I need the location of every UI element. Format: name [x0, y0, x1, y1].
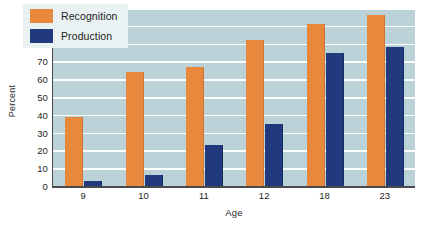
legend-item-production: Production — [30, 29, 118, 43]
bar-recognition-9 — [65, 117, 83, 186]
bar-group — [367, 8, 403, 186]
bar-group — [307, 8, 343, 186]
bar-group — [126, 8, 162, 186]
x-axis-tick-labels: 91011121823 — [53, 190, 415, 206]
y-axis-tick-label: 0 — [22, 181, 48, 192]
bar-production-10 — [145, 175, 163, 186]
x-axis-title: Age — [53, 207, 415, 218]
bar-recognition-23 — [367, 15, 385, 186]
bar-production-12 — [265, 124, 283, 186]
legend-label-recognition: Recognition — [61, 10, 118, 22]
y-axis-tick-label: 70 — [22, 56, 48, 67]
y-axis-tick-label: 50 — [22, 92, 48, 103]
bar-recognition-18 — [307, 24, 325, 186]
bar-production-23 — [386, 47, 404, 186]
x-axis-line — [52, 186, 415, 188]
bar-chart: Percent 0102030405060708090100 Recogniti… — [0, 0, 422, 226]
bar-group — [246, 8, 282, 186]
x-axis-tick-label: 9 — [63, 190, 103, 201]
legend-item-recognition: Recognition — [30, 9, 118, 23]
y-axis-tick-label: 40 — [22, 109, 48, 120]
y-axis-tick-label: 60 — [22, 74, 48, 85]
legend-swatch-production-icon — [30, 29, 53, 43]
legend-swatch-recognition-icon — [30, 9, 53, 23]
bar-production-18 — [326, 53, 344, 187]
bar-recognition-11 — [186, 67, 204, 186]
y-axis-tick-label: 30 — [22, 127, 48, 138]
x-axis-tick-label: 18 — [305, 190, 345, 201]
x-axis-tick-label: 23 — [365, 190, 405, 201]
y-axis-title: Percent — [7, 71, 17, 131]
legend-label-production: Production — [61, 30, 112, 42]
bar-recognition-12 — [246, 40, 264, 186]
chart-legend: Recognition Production — [23, 4, 128, 48]
bar-group — [186, 8, 222, 186]
x-axis-tick-label: 11 — [184, 190, 224, 201]
bar-production-11 — [205, 145, 223, 186]
y-axis-tick-label: 20 — [22, 145, 48, 156]
bar-recognition-10 — [126, 72, 144, 186]
y-axis-tick-label: 10 — [22, 163, 48, 174]
x-axis-tick-label: 10 — [124, 190, 164, 201]
x-axis-tick-label: 12 — [244, 190, 284, 201]
